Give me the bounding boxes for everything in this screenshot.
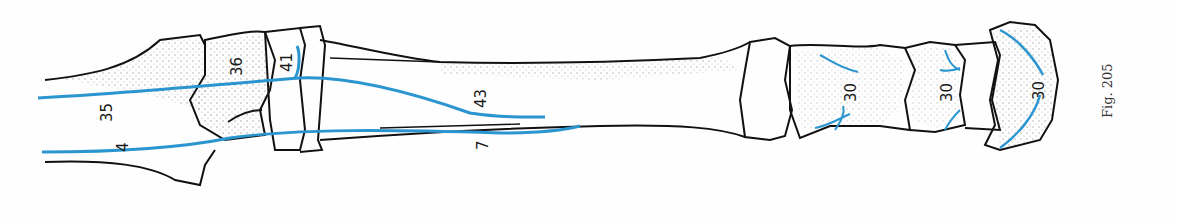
anatomical-figure: 35 36 41 43 4 7 30 30 30 Fig. 205 xyxy=(0,0,1177,224)
label-35: 35 xyxy=(98,103,116,122)
label-7: 7 xyxy=(474,140,492,150)
label-43: 43 xyxy=(472,89,490,108)
labels-layer: 35 36 41 43 4 7 30 30 30 Fig. 205 xyxy=(0,0,1177,224)
figure-caption: Fig. 205 xyxy=(1100,63,1115,118)
label-41: 41 xyxy=(278,53,296,72)
label-4: 4 xyxy=(114,142,132,152)
label-30-coffin: 30 xyxy=(1030,81,1048,100)
label-30-pastern: 30 xyxy=(842,83,860,102)
label-30-coronet: 30 xyxy=(938,83,956,102)
label-36: 36 xyxy=(228,57,246,76)
